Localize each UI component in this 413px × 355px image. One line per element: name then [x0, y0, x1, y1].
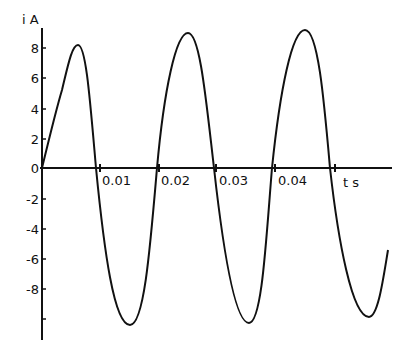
svg-text:4: 4 — [31, 102, 39, 117]
x-tick-labels: 0.01 0.02 0.03 0.04 — [102, 173, 307, 188]
x-axis-label: t s — [343, 175, 359, 190]
svg-text:0: 0 — [31, 161, 39, 176]
svg-text:6: 6 — [31, 71, 39, 86]
current-waveform — [42, 30, 388, 325]
svg-text:8: 8 — [31, 41, 39, 56]
chart: i A 8 6 4 2 0 -2 -4 -6 -8 0.01 0.02 0.03… — [0, 0, 413, 355]
svg-text:-2: -2 — [26, 192, 39, 207]
y-tick-labels: 8 6 4 2 0 -2 -4 -6 -8 — [26, 41, 39, 297]
svg-text:0.02: 0.02 — [161, 173, 190, 188]
svg-text:2: 2 — [31, 132, 39, 147]
svg-text:-4: -4 — [26, 222, 39, 237]
svg-text:-8: -8 — [26, 282, 39, 297]
svg-text:-6: -6 — [26, 252, 39, 267]
svg-text:0.04: 0.04 — [278, 173, 307, 188]
svg-text:0.03: 0.03 — [219, 173, 248, 188]
y-axis-label: i A — [22, 12, 39, 27]
svg-text:0.01: 0.01 — [102, 173, 131, 188]
